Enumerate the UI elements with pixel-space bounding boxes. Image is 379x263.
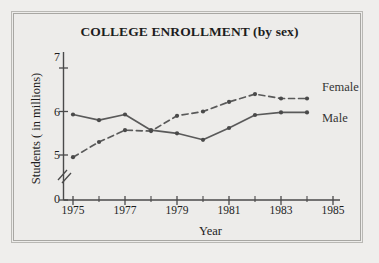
data-point-female-1982 bbox=[253, 92, 257, 96]
chart-figure: COLLEGE ENROLLMENT (by sex) Students ( i… bbox=[0, 0, 379, 263]
series-female bbox=[71, 92, 309, 159]
data-point-male-1984 bbox=[305, 110, 309, 114]
data-point-female-1977 bbox=[123, 128, 127, 132]
series-layer bbox=[71, 92, 309, 159]
axes-layer bbox=[58, 52, 340, 200]
data-point-male-1983 bbox=[279, 110, 283, 114]
data-point-male-1980 bbox=[201, 138, 205, 142]
data-point-male-1976 bbox=[97, 118, 101, 122]
data-point-male-1975 bbox=[71, 112, 75, 116]
data-point-female-1975 bbox=[71, 155, 75, 159]
data-point-female-1980 bbox=[201, 109, 205, 113]
plot-area bbox=[0, 0, 379, 263]
data-point-male-1982 bbox=[253, 113, 257, 117]
data-point-female-1981 bbox=[227, 100, 231, 104]
data-point-female-1976 bbox=[97, 140, 101, 144]
data-point-female-1979 bbox=[175, 114, 179, 118]
data-point-male-1979 bbox=[175, 131, 179, 135]
data-point-male-1981 bbox=[227, 126, 231, 130]
series-line-male bbox=[73, 112, 307, 139]
data-point-male-1978 bbox=[149, 128, 153, 132]
data-point-female-1984 bbox=[305, 96, 309, 100]
series-male bbox=[71, 110, 309, 142]
series-line-female bbox=[73, 94, 307, 157]
data-point-female-1983 bbox=[279, 96, 283, 100]
data-point-male-1977 bbox=[123, 112, 127, 116]
